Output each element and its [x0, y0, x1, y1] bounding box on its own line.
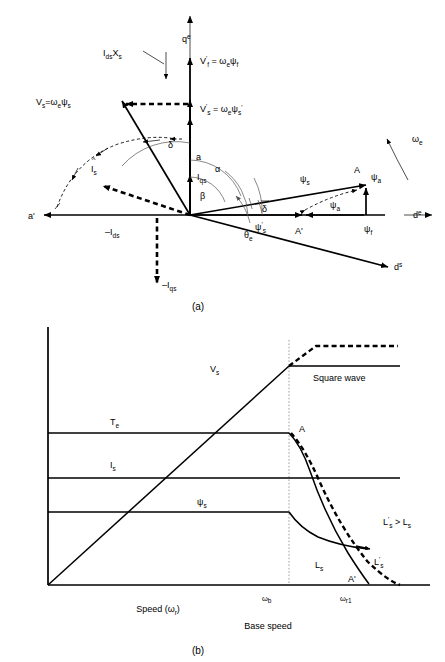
- chart-label-point-A-prime: A': [348, 574, 356, 584]
- label-iqs: Iqs: [197, 172, 207, 185]
- arc-tick-1: [55, 203, 60, 209]
- label-neg-iqs: –Iqs: [162, 280, 177, 293]
- label-a-point: a: [196, 152, 201, 162]
- series-square-wave: [289, 346, 398, 366]
- chart-label-point-A: A: [299, 424, 305, 434]
- series-ls-falloff: [289, 433, 369, 584]
- label-alpha: α: [215, 164, 220, 174]
- arc-is-sweep: [57, 137, 176, 207]
- chart-label-inductance-compare: L's > Ls: [383, 516, 412, 529]
- arc-delta-left: [122, 142, 190, 166]
- arc-beta: [190, 177, 225, 202]
- arc-arrow-1: [72, 168, 78, 180]
- label-ids-xs: IdsXs: [103, 48, 122, 60]
- arc-delta-bar-2: [249, 198, 252, 209]
- label-psi-s: ψs: [300, 174, 310, 186]
- figure-svg: qe IdsXs V'f = ωeψf V's = ωeψs' Vs=ωeψs …: [0, 0, 445, 662]
- chart-xtick-omega-r1: ωr1: [340, 594, 352, 604]
- label-a-prime: a': [28, 211, 35, 221]
- label-psi-a: ψa: [330, 200, 340, 212]
- leader-ids-xs: [143, 51, 164, 64]
- chart-label-te: Te: [110, 417, 120, 429]
- chart-base-speed-note: Base speed: [244, 621, 292, 631]
- chart-label-ls: Ls: [315, 560, 324, 572]
- series-ls-prime-falloff: [291, 433, 400, 585]
- label-vs-prime: V's = ωeψs': [200, 103, 242, 116]
- vector-vs: [122, 101, 190, 215]
- label-psi-s-prime: ψ's: [255, 221, 267, 234]
- axis-label-ds: ds: [394, 261, 403, 272]
- chart-xtick-omega-b: ωb: [262, 594, 272, 604]
- chart-label-ls-prime: L's: [374, 556, 384, 569]
- label-is-hat: Is: [91, 164, 98, 176]
- axis-ds-line: [190, 215, 388, 267]
- label-psi-a-tip: ψa: [371, 172, 381, 184]
- arrow-omega-e-rotation: [387, 139, 408, 180]
- hat-accent: ^: [92, 155, 96, 164]
- phasor-diagram: qe IdsXs V'f = ωeψf V's = ωeψs' Vs=ωeψs …: [28, 16, 432, 312]
- label-omega-e: ωe: [412, 134, 423, 146]
- label-vf-prime: V'f = ωeψf: [200, 55, 238, 68]
- figure-root: qe IdsXs V'f = ωeψf V's = ωeψs' Vs=ωeψs …: [0, 0, 445, 662]
- label-point-A: A: [354, 165, 360, 175]
- label-delta: δ: [168, 140, 173, 150]
- chart-xlabel: Speed (ωr): [136, 604, 180, 616]
- label-neg-ids: –Ids: [105, 227, 120, 239]
- arc-theta-e: [236, 196, 250, 223]
- caption-b: (b): [192, 645, 204, 656]
- arc-arrow-2: [96, 148, 108, 156]
- vector-is-current: [103, 186, 190, 215]
- label-delta-bar: δ: [262, 204, 267, 214]
- speed-characteristics-chart: Vs Square wave Te Is ψs A Ls L's A' L's …: [48, 327, 430, 656]
- caption-a: (a): [192, 301, 204, 312]
- axis-label-de: de: [413, 209, 422, 220]
- chart-label-is: Is: [110, 460, 117, 472]
- label-vs: Vs=ωeψs: [36, 97, 72, 109]
- label-psi-f: ψf: [364, 224, 372, 236]
- series-vs-ramp: [48, 366, 289, 585]
- label-beta: β: [200, 191, 205, 201]
- chart-label-psi-s: ψs: [197, 497, 207, 509]
- chart-label-vs: Vs: [210, 364, 220, 376]
- chart-label-square-wave: Square wave: [313, 373, 366, 383]
- label-point-A-prime: A': [295, 226, 303, 236]
